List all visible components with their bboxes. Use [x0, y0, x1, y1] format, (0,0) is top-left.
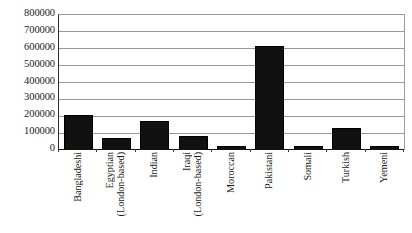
- x-axis-label-line: Bangladeshi: [72, 152, 83, 202]
- x-axis-label-line: Moroccan: [225, 152, 236, 193]
- y-tick-label: 600000: [2, 42, 55, 52]
- x-axis-label-line: Turkish: [340, 152, 351, 183]
- x-axis-label-line: Pakistani: [263, 152, 274, 189]
- y-axis-tick-labels: 8000007000006000005000004000003000002000…: [0, 0, 55, 160]
- y-tick-label: 700000: [2, 25, 55, 35]
- x-axis-label-line: Iraqi: [181, 152, 192, 171]
- y-tick-label: 200000: [2, 109, 55, 119]
- x-axis-label: Somali: [288, 152, 326, 230]
- x-axis-label: Moroccan: [211, 152, 249, 230]
- x-axis-category-labels: BangladeshiEgyptian(London-based)IndianI…: [58, 152, 403, 233]
- x-axis-label: Egyptian(London-based): [96, 152, 134, 230]
- y-tick-label: 500000: [2, 59, 55, 69]
- bar: [140, 121, 169, 150]
- x-axis-label: Yemeni: [365, 152, 403, 230]
- bar: [255, 46, 284, 150]
- x-axis-label-line: Egyptian: [104, 152, 115, 188]
- x-axis-label: Indian: [135, 152, 173, 230]
- x-axis-label: Pakistani: [250, 152, 288, 230]
- y-tick-label: 300000: [2, 92, 55, 102]
- x-axis-label: Turkish: [326, 152, 364, 230]
- bars: [59, 15, 404, 150]
- bar: [179, 136, 208, 150]
- x-axis-label-line: Indian: [148, 152, 159, 178]
- x-axis-label: Iraqi(London-based): [173, 152, 211, 230]
- x-axis-label-line: Somali: [302, 152, 313, 181]
- bar: [64, 115, 93, 150]
- x-axis-label-line: (London-based): [192, 152, 203, 216]
- plot-area: [58, 14, 405, 150]
- tickmark: [403, 149, 404, 153]
- x-axis-label-line: (London-based): [115, 152, 126, 216]
- bar: [332, 128, 361, 150]
- x-axis-label: Bangladeshi: [58, 152, 96, 230]
- y-tick-label: 400000: [2, 76, 55, 86]
- y-tick-label: 100000: [2, 126, 55, 136]
- y-tick-label: 800000: [2, 8, 55, 18]
- bar-chart: 8000007000006000005000004000003000002000…: [0, 0, 412, 233]
- x-axis-label-line: Yemeni: [378, 152, 389, 183]
- y-tick-label: 0: [2, 143, 55, 153]
